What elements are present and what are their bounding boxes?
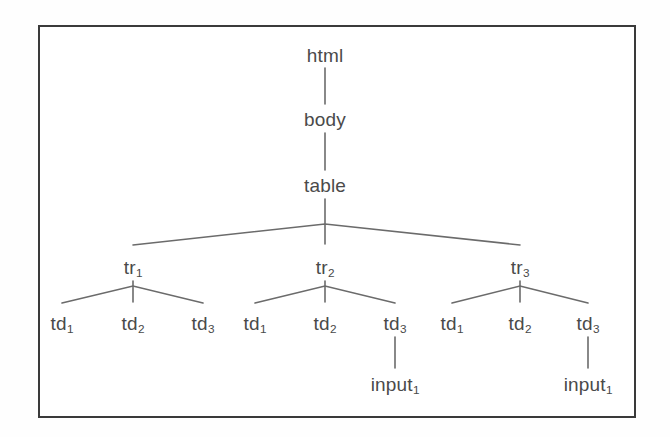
node-tr2-td-2-base: td (314, 313, 330, 334)
node-tr3-td-2-base: td (509, 313, 525, 334)
node-tr3-td3-input-1: input1 (564, 374, 613, 396)
node-tr1-td-2-subscript: 2 (138, 322, 145, 335)
node-tr1-td-1: td1 (51, 313, 74, 335)
node-tr2-td-3: td3 (384, 313, 407, 335)
node-tr3-td3-input-1-base: input (564, 374, 606, 395)
node-tr1-td-2: td2 (122, 313, 145, 335)
node-tr1-td-3: td3 (192, 313, 215, 335)
node-tr-2: tr2 (316, 257, 335, 279)
node-tr3-td-1-base: td (441, 313, 457, 334)
node-tr3-td-3-base: td (577, 313, 593, 334)
node-tr-3-base: tr (511, 257, 523, 278)
node-tr-2-base: tr (316, 257, 328, 278)
node-tr-3: tr3 (511, 257, 530, 279)
node-tr3-td-1-subscript: 1 (457, 322, 464, 335)
node-tr-1-subscript: 1 (136, 266, 143, 279)
node-table-label: table (304, 175, 346, 196)
node-body-label: body (304, 109, 346, 130)
node-tr-3-subscript: 3 (523, 266, 530, 279)
node-tr2-td-1-subscript: 1 (260, 322, 267, 335)
node-tr2-td-1-base: td (244, 313, 260, 334)
node-tr-2-subscript: 2 (328, 266, 335, 279)
node-tr1-td-3-subscript: 3 (208, 322, 215, 335)
node-tr2-td-3-base: td (384, 313, 400, 334)
node-html-label: html (307, 45, 344, 66)
node-table: table (304, 175, 346, 197)
node-tr1-td-1-subscript: 1 (67, 322, 74, 335)
node-tr1-td-2-base: td (122, 313, 138, 334)
node-tr2-td3-input-1-subscript: 1 (413, 383, 420, 396)
edge-table-fan (133, 224, 520, 245)
node-tr-1-base: tr (124, 257, 136, 278)
node-tr1-td-3-base: td (192, 313, 208, 334)
node-tr2-td-3-subscript: 3 (400, 322, 407, 335)
diagram-canvas: html body table tr1 tr2 tr3 td1 td2 td3 … (0, 0, 670, 437)
node-tr2-td3-input-1-base: input (371, 374, 413, 395)
node-tr-1: tr1 (124, 257, 143, 279)
node-html: html (307, 45, 344, 67)
node-tr2-td3-input-1: input1 (371, 374, 420, 396)
node-tr2-td-1: td1 (244, 313, 267, 335)
node-tr3-td-3-subscript: 3 (593, 322, 600, 335)
node-tr3-td-3: td3 (577, 313, 600, 335)
node-tr1-td-1-base: td (51, 313, 67, 334)
node-tr2-td-2-subscript: 2 (330, 322, 337, 335)
node-tr3-td3-input-1-subscript: 1 (606, 383, 613, 396)
node-tr3-td-2-subscript: 2 (525, 322, 532, 335)
node-tr2-td-2: td2 (314, 313, 337, 335)
node-tr3-td-1: td1 (441, 313, 464, 335)
node-body: body (304, 109, 346, 131)
node-tr3-td-2: td2 (509, 313, 532, 335)
